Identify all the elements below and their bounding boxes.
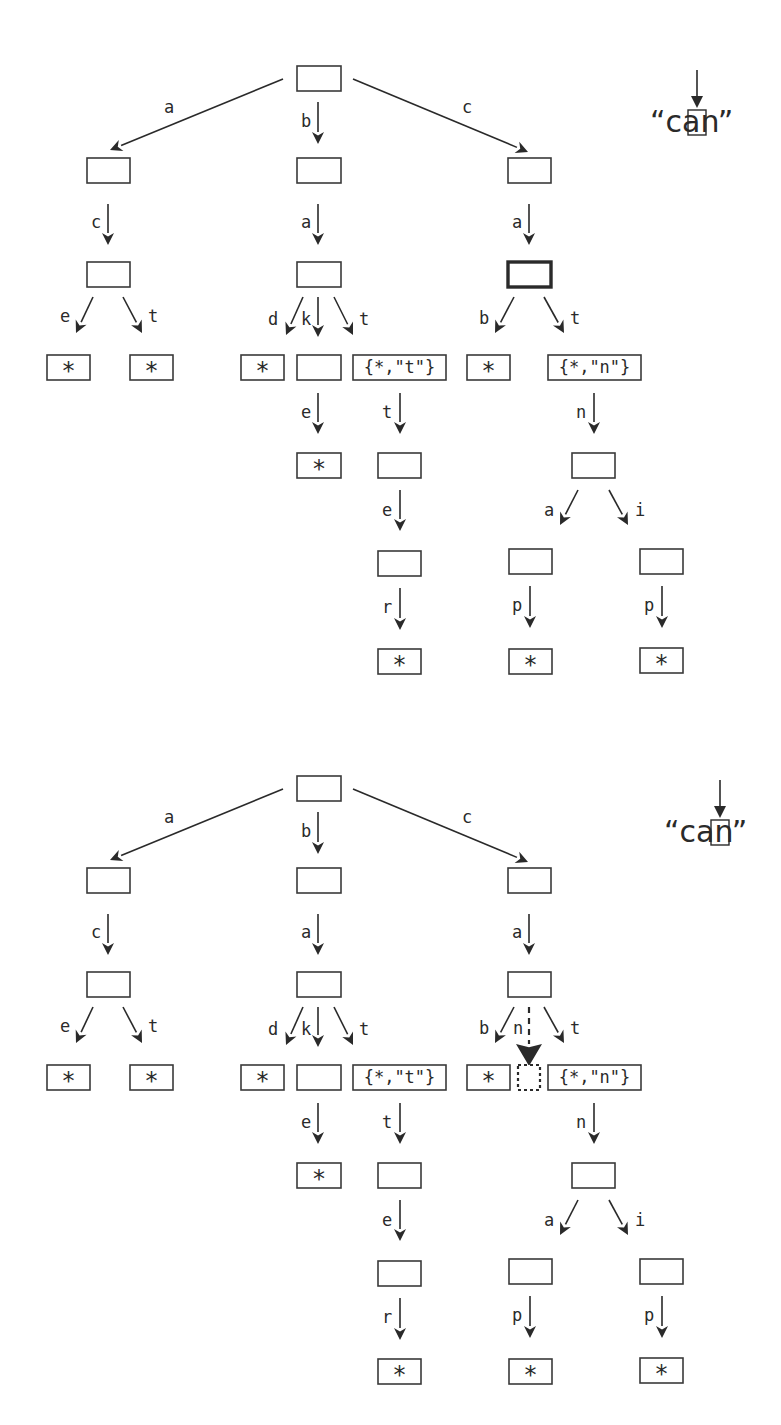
edge-i: i xyxy=(609,490,645,525)
trie-node-can xyxy=(518,1065,540,1090)
trie-node-ba xyxy=(297,972,341,997)
end-of-word-marker: * xyxy=(257,357,269,385)
edge-label: c xyxy=(462,97,472,117)
edge-line xyxy=(544,297,558,323)
end-of-word-marker: * xyxy=(656,1360,668,1388)
arrowhead-icon xyxy=(312,943,324,955)
trie-node-bad: * xyxy=(241,1065,284,1095)
edge-a: a xyxy=(544,1200,578,1235)
end-of-word-marker: * xyxy=(525,1361,537,1389)
arrowhead-icon xyxy=(312,233,324,245)
edge-label: n xyxy=(513,1018,523,1038)
edge-b: b xyxy=(301,102,324,144)
trie-node-c xyxy=(508,868,551,893)
trie-node-ace: * xyxy=(47,1065,90,1095)
edge-t: t xyxy=(123,1007,158,1043)
trie-node-catn xyxy=(572,453,615,478)
edge-p: p xyxy=(512,586,536,628)
edge-p: p xyxy=(512,1296,536,1338)
trie-node-root xyxy=(297,66,341,91)
edge-label: a xyxy=(301,212,311,232)
edge-a: a xyxy=(512,204,535,245)
nodes-layer: ***{*,"t"}*{*,"n"}**** xyxy=(47,776,683,1389)
edge-label: e xyxy=(382,1210,392,1230)
node-box xyxy=(378,1261,421,1286)
node-box xyxy=(87,972,130,997)
edge-label: n xyxy=(576,402,586,422)
edge-label: e xyxy=(382,500,392,520)
end-of-word-marker: * xyxy=(525,651,537,679)
end-of-word-marker: * xyxy=(257,1067,269,1095)
arrowhead-icon xyxy=(588,422,600,434)
edge-t: t xyxy=(334,1007,369,1045)
edge-label: i xyxy=(635,500,645,520)
edge-a: a xyxy=(512,914,535,955)
edge-label: p xyxy=(512,595,522,615)
arrowhead-icon xyxy=(312,325,324,337)
edge-label: n xyxy=(576,1112,586,1132)
edge-line xyxy=(81,1007,93,1032)
edge-label: r xyxy=(382,597,392,617)
edge-label: a xyxy=(544,500,554,520)
edge-t: t xyxy=(382,1103,406,1144)
edge-line xyxy=(123,297,136,322)
trie-node-catnip: * xyxy=(640,1358,683,1388)
edge-t: t xyxy=(382,393,406,434)
edge-label: a xyxy=(301,922,311,942)
edge-label: d xyxy=(268,1019,278,1039)
edge-c: c xyxy=(91,914,114,955)
arrowhead-icon xyxy=(394,1132,406,1144)
edge-d: d xyxy=(268,297,303,335)
arrowhead-icon xyxy=(524,1326,536,1338)
end-of-word-marker: * xyxy=(63,1067,75,1095)
edge-line xyxy=(565,490,578,514)
trie-node-catnap: * xyxy=(509,649,552,679)
arrowhead-icon xyxy=(656,1326,668,1338)
edge-label: c xyxy=(91,212,101,232)
edge-p: p xyxy=(644,586,668,628)
edge-label: b xyxy=(301,821,311,841)
node-box xyxy=(378,551,421,576)
arrowhead-icon xyxy=(394,519,406,531)
close-quote: ” xyxy=(732,814,748,849)
edge-e: e xyxy=(60,1007,93,1043)
arrowhead-icon xyxy=(524,616,536,628)
edge-line xyxy=(121,79,283,145)
arrowhead-icon xyxy=(312,1035,324,1047)
edge-label: t xyxy=(148,306,158,326)
arrowhead-icon xyxy=(312,422,324,434)
edge-label: t xyxy=(570,1018,580,1038)
edge-d: d xyxy=(268,1007,303,1045)
edge-a: a xyxy=(110,79,283,151)
edge-t: t xyxy=(123,297,158,333)
trie-node-act: * xyxy=(130,355,173,385)
arrowhead-icon xyxy=(523,943,535,955)
arrowhead-icon xyxy=(312,132,324,144)
end-of-word-marker: * xyxy=(483,1067,495,1095)
edge-line xyxy=(609,490,622,514)
trie-node-ca xyxy=(508,972,551,997)
edge-line xyxy=(334,1007,348,1034)
trie-node-catnip: * xyxy=(640,648,683,678)
edge-e: e xyxy=(382,1200,406,1241)
trie-node-a xyxy=(87,158,130,183)
arrowhead-icon xyxy=(656,616,668,628)
node-box xyxy=(297,972,341,997)
edge-label: a xyxy=(512,922,522,942)
query-indicator: “can” xyxy=(650,70,733,139)
edge-line xyxy=(81,297,93,322)
arrowhead-icon xyxy=(394,618,406,630)
edge-label: k xyxy=(301,1019,311,1039)
edge-label: p xyxy=(644,1305,654,1325)
query-prefix: ca xyxy=(680,814,715,849)
node-box xyxy=(87,868,130,893)
edge-c: c xyxy=(353,79,528,153)
edge-k: k xyxy=(301,1007,324,1047)
edge-label: e xyxy=(60,306,70,326)
trie-node-catni xyxy=(640,1259,683,1284)
edge-label: c xyxy=(91,922,101,942)
trie-node-batt xyxy=(378,1163,421,1188)
arrowhead-icon xyxy=(102,943,114,955)
end-of-word-marker: * xyxy=(146,357,158,385)
close-quote: ” xyxy=(718,104,734,139)
